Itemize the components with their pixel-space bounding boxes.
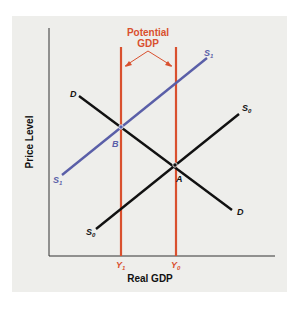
point-b-marker (119, 125, 123, 129)
y-axis-label: Price Level (24, 115, 35, 168)
title-line1: Potential (127, 27, 169, 38)
demand-curve-d (79, 96, 232, 210)
x-tick-y1: Y1 (116, 260, 126, 271)
point-a-marker (173, 163, 177, 167)
title-line2: GDP (137, 38, 159, 49)
label-point-b: B (112, 139, 119, 149)
label-s1-bottom: S1 (53, 175, 63, 186)
label-d-top: D (70, 89, 77, 99)
x-axis-label: Real GDP (127, 273, 173, 284)
label-s0-top: S0 (242, 103, 252, 114)
aggregate-supply-demand-diagram: Potential GDP S1 S1 D D S0 S0 B A Y1 Y0 … (0, 0, 300, 313)
potential-gdp-arrows-icon (125, 51, 172, 66)
label-d-bottom: D (237, 207, 244, 217)
label-point-a: A (175, 174, 183, 184)
label-s0-bottom: S0 (86, 227, 96, 238)
label-s1-top: S1 (204, 48, 214, 59)
x-tick-y0: Y0 (171, 260, 181, 271)
